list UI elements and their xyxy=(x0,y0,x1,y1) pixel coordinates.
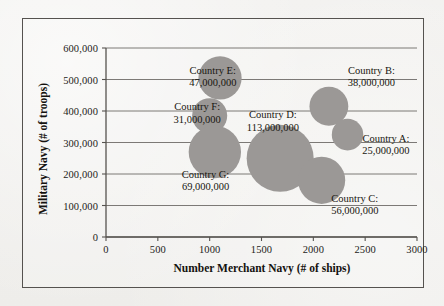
y-axis-tick-label: 300,000 xyxy=(36,137,98,148)
bubble-countrya[interactable] xyxy=(332,119,364,151)
bubble-label-name: Country D: xyxy=(247,109,299,122)
x-axis-tick-label: 0 xyxy=(103,244,108,255)
y-axis-tick-label: 600,000 xyxy=(36,43,98,54)
bubble-label-countrya: Country A:25,000,000 xyxy=(362,133,409,158)
bubble-label-name: Country E: xyxy=(189,65,236,78)
bubble-label-countryb: Country B:38,000,000 xyxy=(348,65,395,90)
bubble-label-name: Country C: xyxy=(331,193,378,206)
bubble-label-countryf: Country F:31,000,000 xyxy=(174,101,221,126)
bubble-label-countryg: Country G:69,000,000 xyxy=(182,169,230,194)
y-axis-tick-label: 0 xyxy=(36,232,98,243)
bubble-label-name: Country G: xyxy=(182,169,230,182)
bubble-label-name: Country B: xyxy=(348,65,395,78)
bubble-label-countrye: Country E:47,000,000 xyxy=(189,65,236,90)
x-axis-tick-label: 2000 xyxy=(303,244,324,255)
x-axis-title: Number Merchant Navy (# of ships) xyxy=(106,262,418,274)
x-axis-tick-label: 1500 xyxy=(251,244,272,255)
bubble-label-name: Country A: xyxy=(362,133,409,146)
bubble-label-value: 69,000,000 xyxy=(182,181,230,194)
x-axis-tick-label: 2500 xyxy=(354,244,375,255)
bubble-label-value: 113,000,000 xyxy=(247,122,299,135)
bubble-label-value: 56,000,000 xyxy=(331,205,378,218)
bubble-label-name: Country F: xyxy=(174,101,221,114)
bubble-label-value: 31,000,000 xyxy=(174,114,221,127)
x-axis-tick-label: 1000 xyxy=(199,244,220,255)
x-axis-tick-label: 500 xyxy=(150,244,166,255)
y-axis-tick-label: 400,000 xyxy=(36,106,98,117)
y-axis-tick-label: 100,000 xyxy=(36,200,98,211)
bubble-label-value: 25,000,000 xyxy=(362,145,409,158)
bubble-label-countryc: Country C:56,000,000 xyxy=(331,193,378,218)
x-axis-tick-label: 3000 xyxy=(406,244,427,255)
y-axis-tick-label: 500,000 xyxy=(36,74,98,85)
bubble-label-value: 38,000,000 xyxy=(348,77,395,90)
bubble-label-value: 47,000,000 xyxy=(189,77,236,90)
bubble-label-countryd: Country D:113,000,000 xyxy=(247,109,299,134)
y-axis-tick-label: 200,000 xyxy=(36,169,98,180)
